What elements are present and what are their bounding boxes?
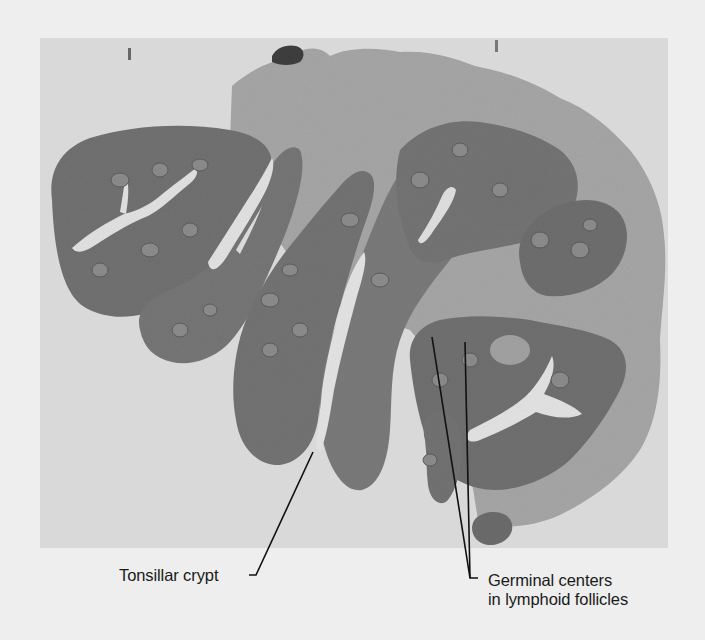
label-germinal-centers: Germinal centers in lymphoid follicles — [488, 571, 628, 609]
label-germinal-line2: in lymphoid follicles — [488, 590, 628, 609]
label-germinal-line1: Germinal centers — [488, 571, 628, 590]
large-pale-follicle — [490, 335, 530, 365]
tonsil-micrograph — [40, 38, 668, 548]
label-tonsillar-crypt: Tonsillar crypt — [119, 566, 218, 585]
